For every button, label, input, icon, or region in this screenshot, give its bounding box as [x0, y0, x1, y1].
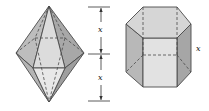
geometry-figure: x x x: [0, 0, 209, 111]
hexagonal-prism: [126, 7, 191, 87]
arrow-up-icon: [99, 8, 102, 12]
lower-height-label: x: [98, 73, 103, 82]
hexagonal-bipyramid: [16, 6, 84, 102]
prism-height-label: x: [196, 44, 201, 53]
upper-height-label: x: [98, 25, 103, 34]
height-dimension: [88, 7, 110, 101]
arrow-down-icon: [99, 96, 102, 100]
arrow-down-icon: [99, 49, 102, 53]
arrow-up-icon: [99, 55, 102, 59]
prism-face-front: [143, 38, 177, 87]
